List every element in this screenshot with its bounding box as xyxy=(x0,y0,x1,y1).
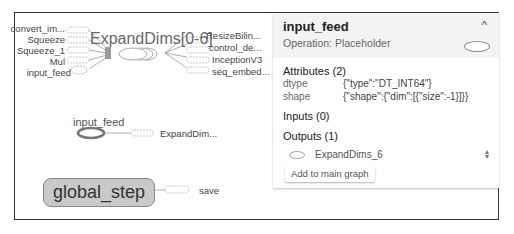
output-node-label[interactable]: ResizeBilin... xyxy=(206,30,261,41)
panel-title: input_feed xyxy=(283,19,349,34)
input-feed-output-label[interactable]: ExpandDim... xyxy=(160,128,217,139)
graph-canvas[interactable]: convert_im... Squeeze Squeeze_1 Mul inpu… xyxy=(15,13,287,221)
attr-key: shape xyxy=(283,91,310,102)
save-node-label[interactable]: save xyxy=(199,185,219,196)
graph-frame: convert_im... Squeeze Squeeze_1 Mul inpu… xyxy=(14,12,499,220)
group-node-label[interactable]: ExpandDims[0-6] xyxy=(90,30,213,48)
inputs-header: Inputs (0) xyxy=(283,110,329,122)
collapse-icon[interactable]: ^ xyxy=(482,19,487,31)
panel-header: input_feed Operation: Placeholder ^ xyxy=(273,13,499,58)
attributes-header: Attributes (2) xyxy=(283,65,346,77)
expand-stepper-icon[interactable]: ▴▾ xyxy=(485,149,489,159)
global-step-node[interactable]: global_step xyxy=(43,178,155,207)
attr-value: {"type":"DT_INT64"} xyxy=(343,78,432,89)
attr-value: {"shape":{"dim":[{"size":-1}]}} xyxy=(343,91,468,102)
output-list-item[interactable]: ExpandDims_6 ▴▾ xyxy=(289,149,489,161)
input-node-label[interactable]: convert_im... xyxy=(11,23,65,34)
placeholder-oval-icon xyxy=(464,41,490,52)
add-to-main-graph-button[interactable]: Add to main graph xyxy=(285,165,375,182)
input-node-label[interactable]: Squeeze_1 xyxy=(17,45,65,56)
op-oval-icon xyxy=(289,151,305,159)
outputs-header: Outputs (1) xyxy=(283,130,338,142)
output-node-label[interactable]: seq_embed... xyxy=(212,66,270,77)
input-feed-node-label[interactable]: input_feed xyxy=(73,116,124,128)
attr-key: dtype xyxy=(283,78,307,89)
output-node-label[interactable]: InceptionV3 xyxy=(212,54,262,65)
input-node-label[interactable]: Mul xyxy=(50,56,65,67)
output-name[interactable]: ExpandDims_6 xyxy=(315,149,383,160)
input-node-label[interactable]: input_feed xyxy=(27,67,71,78)
node-info-panel: input_feed Operation: Placeholder ^ Attr… xyxy=(273,13,499,188)
output-node-label[interactable]: control_de... xyxy=(209,42,261,53)
panel-subtitle: Operation: Placeholder xyxy=(283,37,390,49)
input-node-label[interactable]: Squeeze xyxy=(27,34,65,45)
